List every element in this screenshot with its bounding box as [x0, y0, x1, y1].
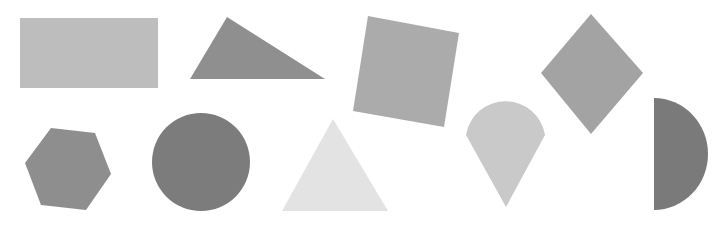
semicircle-shape: Semicircle	[654, 98, 708, 210]
equilateral-triangle-shape: Equilateral triangle	[282, 119, 388, 211]
circle-shape: Circle	[152, 113, 250, 211]
shapes-canvas: Rectangle Scalene triangle Square (rotat…	[0, 0, 727, 227]
rectangle-shape: Rectangle	[20, 18, 158, 88]
teardrop-shape: Teardrop	[466, 101, 545, 207]
rhombus-shape: Rhombus	[541, 14, 643, 134]
hexagon-shape: Hexagon	[25, 128, 111, 210]
scalene-triangle-shape: Scalene triangle	[190, 17, 325, 79]
rotated-square-shape: Square (rotated)	[353, 16, 459, 127]
